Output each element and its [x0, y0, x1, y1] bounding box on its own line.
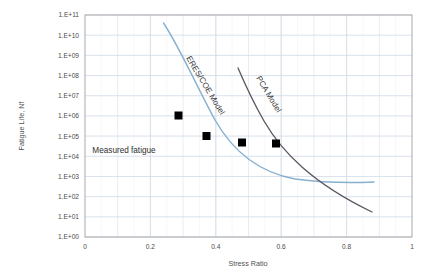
y-tick-label: 1.E+07 [58, 92, 79, 99]
x-axis-title: Stress Ratio [228, 259, 267, 268]
data-point-marker [238, 139, 246, 147]
y-tick-label: 1.E+01 [58, 213, 79, 220]
y-axis-title: Fatigue Life, Nf [17, 102, 26, 151]
y-tick-label: 1.E+02 [58, 193, 79, 200]
x-tick-label: 0 [83, 243, 87, 250]
chart-canvas: 1.E+11 1.E+10 1.E+09 1.E+08 1.E+07 1.E+0… [0, 0, 434, 275]
measured-fatigue-label: Measured fatigue [92, 146, 156, 155]
y-tick-label: 1.E+06 [58, 112, 79, 119]
data-point-marker [203, 132, 211, 140]
y-tick-label: 1.E+11 [58, 11, 79, 18]
data-point-marker [175, 112, 183, 120]
fatigue-life-chart: 1.E+11 1.E+10 1.E+09 1.E+08 1.E+07 1.E+0… [0, 0, 434, 275]
x-tick-label: 0.2 [146, 243, 155, 250]
x-tick-label: 0.4 [211, 243, 220, 250]
y-tick-label: 1.E+10 [58, 32, 79, 39]
y-tick-label: 1.E+00 [58, 233, 79, 240]
x-tick-label: 1 [410, 243, 414, 250]
data-point-marker [272, 140, 280, 148]
y-tick-label: 1.E+04 [58, 153, 79, 160]
y-tick-label: 1.E+09 [58, 52, 79, 59]
y-tick-label: 1.E+08 [58, 72, 79, 79]
x-tick-label: 0.6 [277, 243, 286, 250]
x-tick-label: 0.8 [342, 243, 351, 250]
y-tick-label: 1.E+05 [58, 133, 79, 140]
y-tick-label: 1.E+03 [58, 173, 79, 180]
